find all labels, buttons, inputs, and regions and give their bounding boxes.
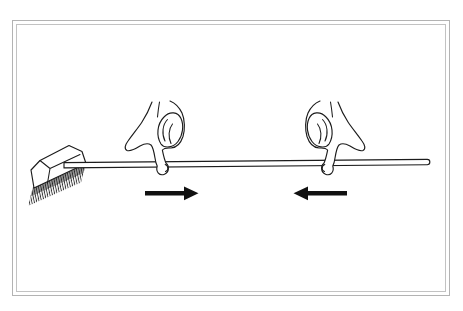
broom (28, 146, 430, 207)
broom-handle (64, 159, 430, 168)
figure-page (0, 0, 463, 311)
illustration-canvas (0, 0, 463, 311)
arrow-left-icon (294, 186, 348, 200)
arrow-right-icon (145, 186, 199, 200)
